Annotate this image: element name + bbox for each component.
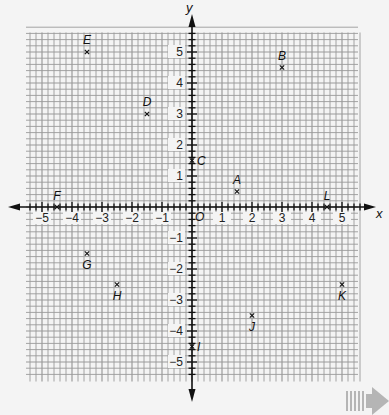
y-tick-label: −2 <box>169 262 183 276</box>
point-label: A <box>232 173 241 187</box>
y-tick-label: −1 <box>169 231 183 245</box>
x-axis-label: x <box>375 206 383 221</box>
x-tick-label: −4 <box>65 211 79 225</box>
point-label: F <box>53 189 61 203</box>
point-label: H <box>113 289 122 303</box>
y-tick-label: 4 <box>176 76 183 90</box>
point-label: I <box>197 340 201 354</box>
x-axis-right-arrow-icon <box>364 204 376 211</box>
x-tick-label: −1 <box>155 211 169 225</box>
x-tick-label: 5 <box>339 211 346 225</box>
x-axis-left-arrow-icon <box>8 204 20 211</box>
point-label: J <box>248 320 256 334</box>
grid-lines <box>26 27 360 381</box>
y-tick-label: −5 <box>169 355 183 369</box>
point-label: C <box>197 154 206 168</box>
y-axis-down-arrow-icon <box>189 389 196 402</box>
tick-labels: xyO−5−4−3−2−112345−5−4−3−2−112345 <box>33 0 383 369</box>
y-tick-label: 1 <box>176 169 183 183</box>
point-label: K <box>338 289 347 303</box>
y-tick-label: −4 <box>169 324 183 338</box>
origin-label: O <box>195 210 204 224</box>
x-tick-label: 1 <box>219 211 226 225</box>
x-tick-label: 2 <box>249 211 256 225</box>
y-axis-up-arrow-icon <box>189 14 196 27</box>
point-k: K <box>338 282 347 302</box>
x-tick-label: 3 <box>279 211 286 225</box>
point-label: G <box>82 258 91 272</box>
y-tick-label: 2 <box>176 138 183 152</box>
y-tick-label: −3 <box>169 293 183 307</box>
point-label: B <box>278 49 286 63</box>
point-label: D <box>143 95 152 109</box>
x-tick-label: −3 <box>95 211 109 225</box>
point-label: L <box>324 189 331 203</box>
point-l: L <box>324 189 331 209</box>
point-label: E <box>83 33 92 47</box>
y-tick-label: 5 <box>176 45 183 59</box>
y-tick-label: 3 <box>176 107 183 121</box>
coordinate-grid: xyO−5−4−3−2−112345−5−4−3−2−112345 ABCDEF… <box>0 0 389 415</box>
y-axis-label: y <box>185 0 194 15</box>
x-tick-label: −5 <box>35 211 49 225</box>
next-page-arrow-icon[interactable] <box>346 387 389 415</box>
x-tick-label: −2 <box>125 211 139 225</box>
x-tick-label: 4 <box>309 211 316 225</box>
plotted-points: ABCDEFGHIJKL <box>53 33 347 354</box>
